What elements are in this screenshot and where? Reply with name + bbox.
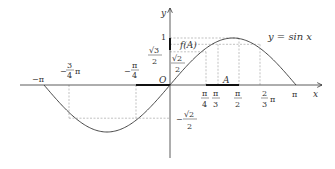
tick-sqrt3-2: √3 2 <box>148 46 162 66</box>
function-label: y = sin x <box>267 31 312 42</box>
svg-text:2: 2 <box>175 65 180 74</box>
x-axis-label: x <box>313 89 318 99</box>
tick-pi4: π 4 <box>201 89 209 109</box>
svg-text:4: 4 <box>202 100 207 109</box>
svg-text:−: − <box>176 115 183 124</box>
svg-text:π: π <box>270 95 275 104</box>
svg-text:4: 4 <box>67 71 72 80</box>
tick-neg-pi: −π <box>32 75 44 84</box>
svg-text:3: 3 <box>262 100 267 109</box>
svg-text:2: 2 <box>152 57 157 66</box>
svg-text:4: 4 <box>132 71 137 80</box>
svg-text:π: π <box>132 61 137 70</box>
y-axis-label: y <box>160 8 167 18</box>
tick-pi2: π 2 <box>234 89 242 109</box>
tick-2pi3: 2 3 π <box>261 89 275 109</box>
svg-text:−: − <box>124 67 131 76</box>
tick-pi3: π 3 <box>212 89 220 109</box>
svg-text:π: π <box>213 89 218 98</box>
point-A-label: A <box>222 75 230 85</box>
tick-neg-3pi4: − 3 4 π <box>60 61 80 80</box>
svg-text:π: π <box>75 67 80 76</box>
svg-text:−: − <box>60 67 67 76</box>
svg-text:√2: √2 <box>184 110 194 119</box>
svg-text:2: 2 <box>262 89 267 98</box>
tick-neg-sqrt2-2: − √2 2 <box>176 110 197 131</box>
origin-label: O <box>159 75 167 85</box>
svg-text:3: 3 <box>213 100 218 109</box>
svg-text:2: 2 <box>235 100 240 109</box>
svg-text:π: π <box>235 89 240 98</box>
tick-one: 1 <box>161 33 166 42</box>
svg-text:√3: √3 <box>149 46 159 55</box>
svg-text:2: 2 <box>187 122 192 131</box>
tick-neg-pi4: − π 4 <box>124 61 139 80</box>
tick-sqrt2-2: √2 2 <box>171 54 185 74</box>
svg-text:√2: √2 <box>172 54 182 63</box>
fA-label: f(A) <box>179 40 197 50</box>
tick-pi: π <box>292 90 297 99</box>
svg-text:3: 3 <box>67 61 72 70</box>
svg-text:π: π <box>202 89 207 98</box>
sine-graph: y = sin x x y O A f(A) −π − 3 4 π − π 4 … <box>0 0 335 169</box>
